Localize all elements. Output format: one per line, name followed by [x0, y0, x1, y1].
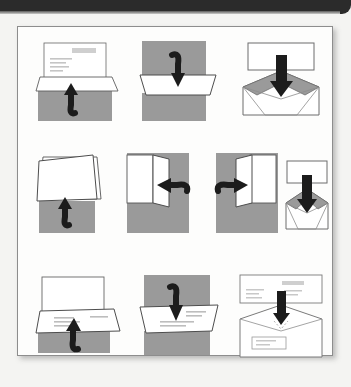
- heading-text-line: [72, 48, 96, 53]
- panel-insert-into-envelope: [239, 39, 325, 123]
- envelope-flap: [36, 77, 118, 91]
- panel-letter-fold-up: [34, 275, 126, 355]
- diagram-frame: [17, 26, 333, 356]
- panel-fold-bottom-up: [34, 41, 120, 123]
- heading-text-line: [282, 281, 304, 285]
- letter-sheet: [44, 43, 106, 81]
- sheet-left-half: [127, 155, 153, 203]
- panel-fold-half-up: [37, 153, 107, 235]
- panel-fold-left: [125, 153, 195, 235]
- scan-top-bar: [0, 0, 351, 14]
- panel-fold-top-down: [136, 41, 222, 123]
- sheet-right-half: [250, 155, 276, 203]
- envelope-body: [142, 93, 206, 121]
- panel-fold-right: [212, 153, 282, 235]
- folded-sheet: [37, 155, 97, 201]
- panel-letter-fold-down: [136, 275, 228, 355]
- address-label-box: [252, 337, 286, 349]
- panel-sealed-envelope: [238, 273, 324, 359]
- panel-insert-folded: [286, 159, 328, 235]
- envelope-body: [144, 331, 210, 355]
